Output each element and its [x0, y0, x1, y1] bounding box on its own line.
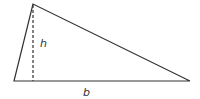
- height-label: h: [40, 37, 47, 50]
- base-label: b: [83, 86, 90, 99]
- triangle-diagram: h b: [0, 0, 200, 99]
